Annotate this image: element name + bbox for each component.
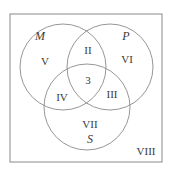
set-m-label: M — [34, 29, 46, 43]
region-center-label: 3 — [85, 74, 91, 86]
region-iii-label: III — [107, 88, 118, 100]
set-s-label: S — [87, 132, 93, 146]
set-p-label: P — [121, 29, 130, 43]
region-ii-label: II — [84, 44, 92, 56]
venn-diagram: M P S V II VI 3 IV III VII VIII — [0, 0, 171, 171]
region-v-label: V — [41, 55, 49, 67]
region-vi-label: VI — [121, 53, 133, 65]
region-vii-label: VII — [82, 118, 98, 130]
region-viii-label: VIII — [137, 145, 156, 157]
region-iv-label: IV — [56, 91, 68, 103]
